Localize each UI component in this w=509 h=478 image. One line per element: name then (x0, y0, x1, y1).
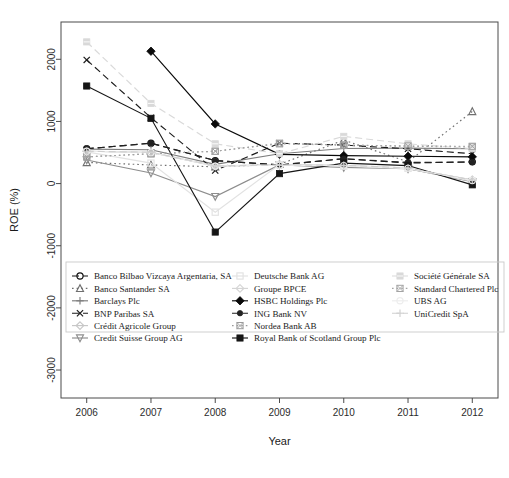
legend-item-label: UBS AG (414, 296, 447, 306)
legend-item-label: BNP Paribas SA (94, 309, 155, 319)
legend-item-label: Standard Chartered Plc (414, 284, 498, 294)
marker-circle-filled (148, 140, 153, 145)
y-tick-label: 0 (46, 180, 57, 186)
x-tick-label: 2007 (140, 407, 163, 418)
legend-item[interactable]: ING Bank NV (232, 309, 307, 319)
legend-item[interactable]: Crédit Agricole Group (72, 321, 176, 331)
legend-item[interactable]: Barclays Plc (72, 296, 140, 306)
marker-circle-filled (237, 311, 242, 316)
legend-item-label: ING Bank NV (254, 309, 307, 319)
series-line (87, 42, 473, 154)
legend-item[interactable]: BNP Paribas SA (72, 309, 155, 319)
legend-item-label: Banco Bilbao Vizcaya Argentaria, SA (94, 271, 232, 281)
marker-square-shaded (148, 100, 154, 106)
legend-item[interactable]: Deutsche Bank AG (232, 271, 325, 281)
legend-item[interactable]: Banco Bilbao Vizcaya Argentaria, SA (72, 271, 232, 281)
y-tick-label: 2000 (46, 48, 57, 71)
marker-square-filled (148, 115, 154, 121)
marker-square-filled (212, 229, 218, 235)
legend-item-label: Banco Santander SA (94, 284, 170, 294)
legend-item-label: Royal Bank of Scotland Group Plc (254, 333, 381, 343)
y-axis-title: ROE (%) (8, 188, 20, 232)
legend-item-label: Deutsche Bank AG (254, 271, 325, 281)
x-tick-label: 2008 (204, 407, 227, 418)
legend-item[interactable]: UBS AG (392, 296, 447, 306)
marker-square-shaded (397, 273, 403, 279)
y-tick-label: 1000 (46, 110, 57, 133)
chart-container: 200010000-1000-2000-30002006200720082009… (0, 0, 509, 478)
legend-item[interactable]: UniCredit SpA (392, 309, 469, 319)
marker-square-x (212, 148, 218, 154)
series-12 (84, 39, 476, 157)
marker-square-shaded (84, 39, 90, 45)
marker-triangle-open (469, 108, 476, 115)
marker-diamond-filled (236, 297, 244, 305)
roe-line-chart: 200010000-1000-2000-30002006200720082009… (0, 0, 509, 478)
marker-square-filled (237, 335, 243, 341)
marker-square-shaded (341, 133, 347, 139)
x-tick-label: 2010 (333, 407, 356, 418)
marker-circle-filled (470, 159, 475, 164)
legend-item-label: Barclays Plc (94, 296, 140, 306)
x-tick-label: 2009 (268, 407, 291, 418)
legend-item[interactable]: Nordea Bank AB (232, 321, 317, 331)
marker-square-shaded (212, 141, 218, 147)
marker-square-filled (276, 171, 282, 177)
axes-group: 200010000-1000-2000-30002006200720082009… (8, 48, 484, 447)
x-tick-label: 2006 (76, 407, 99, 418)
legend-item[interactable]: Société Générale SA (392, 271, 490, 281)
legend-item[interactable]: Groupe BPCE (232, 284, 307, 294)
y-tick-label: -3000 (46, 357, 57, 383)
legend-item[interactable]: HSBC Holdings Plc (232, 296, 327, 306)
marker-diamond-filled (404, 152, 412, 160)
legend-item[interactable]: Standard Chartered Plc (392, 284, 498, 294)
marker-square-filled (84, 83, 90, 89)
legend-item-label: Société Générale SA (414, 271, 490, 281)
marker-cross (84, 57, 90, 63)
legend-item-label: Groupe BPCE (254, 284, 307, 294)
legend: Banco Bilbao Vizcaya Argentaria, SABanco… (66, 262, 504, 343)
legend-item-label: Nordea Bank AB (254, 321, 317, 331)
x-tick-label: 2012 (461, 407, 484, 418)
legend-item-label: UniCredit SpA (414, 309, 469, 319)
legend-item[interactable]: Banco Santander SA (72, 284, 170, 294)
legend-item-label: HSBC Holdings Plc (254, 296, 327, 306)
series-group (83, 39, 477, 235)
legend-item-label: Credit Suisse Group AG (94, 333, 183, 343)
legend-item-label: Crédit Agricole Group (94, 321, 176, 331)
x-tick-label: 2011 (397, 407, 419, 418)
marker-square-shaded (276, 151, 282, 157)
marker-plus (396, 310, 403, 317)
y-tick-label: -2000 (46, 295, 57, 321)
series-line (151, 51, 472, 157)
x-axis-title: Year (268, 435, 291, 447)
legend-item[interactable]: Credit Suisse Group AG (72, 333, 183, 343)
legend-item[interactable]: Royal Bank of Scotland Group Plc (232, 333, 381, 343)
y-tick-label: -1000 (46, 233, 57, 259)
marker-plus (76, 297, 83, 304)
